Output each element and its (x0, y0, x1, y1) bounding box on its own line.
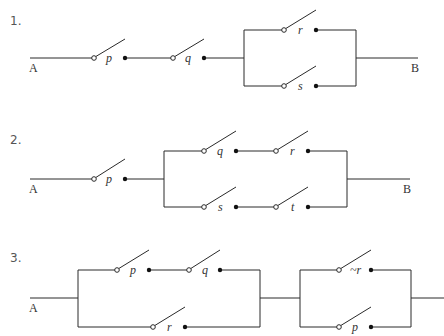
problem-number: 1. (10, 14, 21, 28)
switch-label: p (351, 320, 358, 334)
switch-not-r: ~r (337, 250, 373, 277)
switch-label: s (218, 200, 223, 214)
switching-circuits-diagram: 1. A B p q r s (0, 0, 444, 336)
wire (30, 151, 410, 207)
closed-contact-icon (369, 325, 373, 329)
circuit-3: 3. A p q r ~r (10, 250, 444, 334)
open-contact-icon (187, 268, 192, 273)
closed-contact-icon (234, 149, 238, 153)
closed-contact-icon (218, 268, 222, 272)
switch-label: p (105, 51, 112, 65)
closed-contact-icon (123, 56, 127, 60)
open-contact-icon (115, 268, 120, 273)
open-contact-icon (151, 325, 156, 330)
closed-contact-icon (306, 205, 310, 209)
switch-label: p (129, 263, 136, 277)
switch-label: q (185, 51, 191, 65)
switch-s: s (282, 66, 318, 93)
open-contact-icon (92, 177, 97, 182)
closed-contact-icon (314, 84, 318, 88)
terminal-a-label: A (29, 61, 38, 75)
switch-label: q (202, 263, 208, 277)
open-contact-icon (282, 28, 287, 33)
switch-s: s (202, 187, 239, 214)
open-contact-icon (337, 268, 342, 273)
switch-r: r (282, 10, 318, 37)
problem-number: 3. (10, 251, 21, 265)
switch-q: q (171, 39, 207, 65)
switch-label: ~r (350, 263, 361, 277)
switch-p: p (115, 250, 152, 277)
switch-r: r (274, 131, 310, 158)
closed-contact-icon (183, 325, 187, 329)
closed-contact-icon (123, 177, 127, 181)
circuit-1: 1. A B p q r s (10, 10, 419, 93)
open-contact-icon (202, 149, 207, 154)
switch-r: r (151, 307, 188, 334)
closed-contact-icon (147, 268, 151, 272)
terminal-b-label: B (411, 61, 419, 75)
wire (30, 270, 444, 327)
open-contact-icon (282, 84, 287, 89)
switch-t: t (274, 187, 310, 214)
closed-contact-icon (202, 56, 206, 60)
problem-number: 2. (10, 133, 21, 147)
switch-label: r (167, 320, 172, 334)
open-contact-icon (92, 56, 97, 61)
switch-label: p (105, 172, 112, 186)
switch-p-2: p (337, 307, 373, 334)
open-contact-icon (274, 149, 279, 154)
closed-contact-icon (306, 149, 310, 153)
switch-label: r (298, 23, 303, 37)
switch-label: q (217, 144, 223, 158)
closed-contact-icon (314, 28, 318, 32)
open-contact-icon (171, 56, 176, 61)
closed-contact-icon (234, 205, 238, 209)
circuit-2: 2. A B p q r s (10, 131, 411, 214)
switch-q: q (202, 131, 239, 158)
terminal-a-label: A (29, 182, 38, 196)
open-contact-icon (202, 205, 207, 210)
switch-label: t (291, 200, 295, 214)
switch-label: s (298, 79, 303, 93)
switch-p: p (92, 159, 128, 186)
switch-label: r (290, 144, 295, 158)
open-contact-icon (337, 325, 342, 330)
terminal-b-label: B (403, 182, 411, 196)
wire (30, 30, 418, 86)
open-contact-icon (274, 205, 279, 210)
terminal-a-label: A (29, 301, 38, 315)
closed-contact-icon (369, 268, 373, 272)
switch-p: p (92, 39, 128, 65)
switch-q: q (187, 250, 223, 277)
